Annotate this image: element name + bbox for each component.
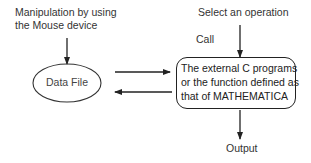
output-label: Output	[226, 142, 258, 155]
process-line1: The external C programs	[181, 61, 292, 75]
input-label-line1: Manipulation by using	[15, 6, 117, 19]
data-file-label: Data File	[33, 76, 101, 88]
input-label-line2: the Mouse device	[15, 19, 117, 32]
process-line2: or the function defined as	[181, 75, 292, 89]
input-label: Manipulation by using the Mouse device	[15, 6, 117, 32]
process-box: The external C programs or the function …	[176, 57, 296, 109]
operation-label: Select an operation	[198, 6, 288, 19]
process-line3: that of MATHEMATICA	[181, 89, 292, 103]
call-label: Call	[196, 33, 214, 46]
